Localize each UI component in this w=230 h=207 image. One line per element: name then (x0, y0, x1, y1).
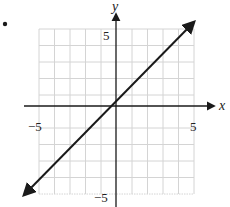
x-axis-label: x (218, 98, 226, 113)
x-tick-5: 5 (190, 119, 197, 134)
bullet-dot-icon (3, 22, 7, 26)
y-tick-5: 5 (103, 28, 110, 43)
coordinate-graph: y x 5 −5 −5 5 (0, 0, 230, 207)
function-line (24, 22, 194, 195)
graph-svg: y x 5 −5 −5 5 (0, 0, 230, 207)
x-tick-neg5: −5 (28, 119, 42, 134)
y-tick-neg5: −5 (94, 190, 108, 205)
y-axis-label: y (110, 0, 119, 14)
